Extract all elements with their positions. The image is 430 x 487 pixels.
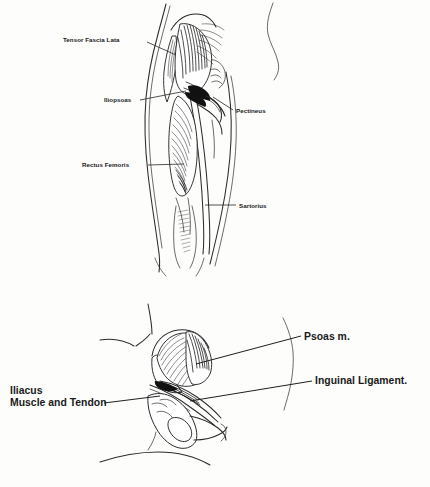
label-inguinal-ligament: Inguinal Ligament. xyxy=(315,375,407,386)
label-pectineus: Pectineus xyxy=(236,107,266,114)
label-tensor-fascia-lata: Tensor Fascia Lata xyxy=(63,36,120,43)
label-iliacus-line-2: Muscle and Tendon xyxy=(10,397,107,408)
label-sartorius: Sartorius xyxy=(239,202,267,209)
figure-pelvis-iliopsoas: Psoas m. Inguinal Ligament. Iliacus Musc… xyxy=(10,304,407,465)
label-psoas-m: Psoas m. xyxy=(304,331,350,342)
label-rectus-femoris: Rectus Femoris xyxy=(82,161,130,168)
anatomy-figure-sheet: Tensor Fascia Lata Iliopsoas Rectus Femo… xyxy=(0,0,430,487)
leader-inguinal-ligament xyxy=(190,381,312,401)
label-iliacus-line-1: Iliacus xyxy=(10,385,43,396)
label-iliopsoas: Iliopsoas xyxy=(104,96,132,103)
leader-psoas-m xyxy=(196,336,301,364)
figure-anterior-thigh: Tensor Fascia Lata Iliopsoas Rectus Femo… xyxy=(63,3,279,276)
